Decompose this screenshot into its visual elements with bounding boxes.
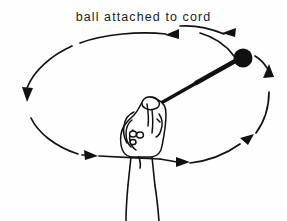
arc-bottom-right [190,144,240,163]
cord-taper [196,60,237,83]
arrow-bottom-right [240,134,254,145]
hand [121,97,166,157]
arc-right-lower [256,92,269,133]
physics-figure-ball-on-cord: ball attached to cord [0,0,287,221]
arc-top-right [200,33,234,56]
forearm-left-edge [126,185,128,221]
ball [234,49,253,68]
wrist-left [128,157,131,185]
arrow-top-left [165,29,179,39]
forearm-right-edge [155,186,159,221]
arrow-bottom-centre [176,157,190,167]
figure-drawing [0,0,287,221]
arrow-right [263,64,274,78]
arc-top-left [80,33,166,43]
forearm [126,157,159,221]
index-finger [142,97,159,110]
arrow-bottom-left [84,150,98,160]
fingertip-3 [130,139,136,144]
knuckle-line-2 [152,110,153,133]
arrow-left [22,87,33,102]
arc-right-upper [255,56,267,68]
arc-lower-left [31,118,78,154]
arc-upper-left [27,46,72,88]
wrist-right [152,157,155,186]
arrow-top-right [222,28,236,37]
fingertip-1 [130,131,137,137]
wrist-crease [139,157,140,168]
arc-bottom-centre-2 [160,159,177,162]
fingertip-2 [137,132,144,138]
